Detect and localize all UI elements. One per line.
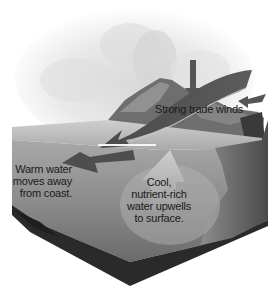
surface-highlight	[98, 144, 156, 146]
warm-water-label: Warm water moves away from coast.	[2, 163, 72, 199]
diagram-artwork	[0, 0, 274, 297]
trade-winds-label: Strong trade winds	[155, 103, 243, 115]
cool-water-label: Cool, nutrient-rich water upwells to sur…	[118, 176, 200, 224]
upwelling-diagram: Strong trade winds Warm water moves away…	[0, 0, 274, 297]
